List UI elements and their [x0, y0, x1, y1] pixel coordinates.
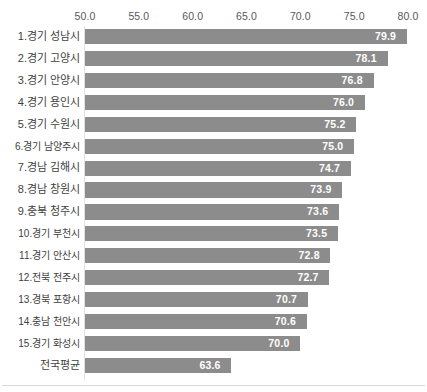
category-label: 전국평균: [40, 355, 80, 377]
bar: [85, 248, 330, 263]
category-label: 6.경기 남양주시: [15, 136, 80, 158]
bar: [85, 73, 374, 88]
bar: [85, 117, 356, 132]
category-label: 11.경기 안산시: [19, 245, 80, 267]
bar-value-label: 76.8: [342, 73, 363, 88]
bar-row: 3.경기 안양시76.8: [0, 70, 427, 92]
bar: [85, 161, 351, 176]
x-axis-tick-70-0: 70.0: [290, 8, 311, 24]
category-label: 14.충남 천안시: [18, 311, 80, 333]
bar-value-label: 74.7: [319, 161, 340, 176]
bar-value-label: 75.2: [324, 117, 345, 132]
x-axis-tick-80-0: 80.0: [398, 8, 419, 24]
bar-value-label: 73.6: [307, 204, 328, 219]
category-label: 2.경기 고양시: [18, 48, 80, 70]
bar-row: 4.경기 용인시76.0: [0, 92, 427, 114]
bar-value-label: 75.0: [322, 139, 343, 154]
category-label: 1.경기 성남시: [18, 26, 80, 48]
bar: [85, 270, 329, 285]
bar: [85, 29, 407, 44]
bar-row: 15.경기 화성시70.0: [0, 333, 427, 355]
bar: [85, 51, 388, 66]
category-label: 9.충북 청주시: [18, 201, 80, 223]
category-label: 4.경기 용인시: [18, 92, 80, 114]
bar: [85, 226, 338, 241]
category-label: 10.경기 부천시: [18, 223, 80, 245]
bar-row: 12.전북 전주시72.7: [0, 267, 427, 289]
x-axis-tick-60-0: 60.0: [182, 8, 203, 24]
bar-value-label: 73.5: [306, 226, 327, 241]
bar-row: 7.경남 김해시74.7: [0, 157, 427, 179]
bar-row: 8.경남 창원시73.9: [0, 179, 427, 201]
bar-row: 5.경기 수원시75.2: [0, 114, 427, 136]
category-label: 5.경기 수원시: [18, 114, 80, 136]
bar-row: 13.경북 포항시70.7: [0, 289, 427, 311]
bar-row: 6.경기 남양주시75.0: [0, 136, 427, 158]
bar-value-label: 70.7: [276, 292, 297, 307]
bar-value-label: 73.9: [310, 182, 331, 197]
chart-bottom-rule: [2, 385, 425, 386]
bar: [85, 292, 308, 307]
x-axis-tick-55-0: 55.0: [128, 8, 149, 24]
x-axis-tick-75-0: 75.0: [344, 8, 365, 24]
bar-value-label: 72.7: [297, 270, 318, 285]
bar: [85, 139, 354, 154]
bar-row: 전국평균63.6: [0, 355, 427, 377]
bar: [85, 314, 307, 329]
bar-value-label: 70.6: [275, 314, 296, 329]
category-label: 13.경북 포항시: [18, 289, 80, 311]
bar: [85, 95, 365, 110]
bar: [85, 182, 342, 197]
bar-value-label: 78.1: [356, 51, 377, 66]
bar-row: 9.충북 청주시73.6: [0, 201, 427, 223]
bar-row: 1.경기 성남시79.9: [0, 26, 427, 48]
bar-row: 2.경기 고양시78.1: [0, 48, 427, 70]
x-axis-tick-50-0: 50.0: [75, 8, 96, 24]
bar-value-label: 72.8: [298, 248, 319, 263]
category-label: 3.경기 안양시: [18, 70, 80, 92]
bar-row: 11.경기 안산시72.8: [0, 245, 427, 267]
bar-value-label: 79.9: [375, 29, 396, 44]
x-axis-tick-labels: 50.055.060.065.070.075.080.0: [0, 8, 427, 24]
bar-rows: 1.경기 성남시79.92.경기 고양시78.13.경기 안양시76.84.경기…: [0, 26, 427, 381]
category-label: 8.경남 창원시: [18, 179, 80, 201]
category-label: 15.경기 화성시: [18, 333, 80, 355]
bar-row: 14.충남 천안시70.6: [0, 311, 427, 333]
x-axis-tick-65-0: 65.0: [236, 8, 257, 24]
bar-chart: 50.055.060.065.070.075.080.0 1.경기 성남시79.…: [0, 0, 427, 392]
bar-row: 10.경기 부천시73.5: [0, 223, 427, 245]
bar: [85, 204, 339, 219]
bar-value-label: 63.6: [199, 358, 220, 373]
category-label: 12.전북 전주시: [18, 267, 80, 289]
bar-value-label: 76.0: [333, 95, 354, 110]
bar-value-label: 70.0: [268, 336, 289, 351]
category-label: 7.경남 김해시: [18, 157, 80, 179]
